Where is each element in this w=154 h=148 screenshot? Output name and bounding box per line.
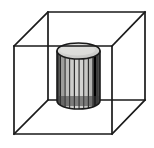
figure-container: Wireframe cube containing a fluted cylin… (0, 0, 154, 148)
fluted-cylinder (56, 43, 101, 110)
cylinder-bottom-shade (56, 96, 101, 106)
cube-cylinder-diagram: Wireframe cube containing a fluted cylin… (0, 0, 154, 148)
